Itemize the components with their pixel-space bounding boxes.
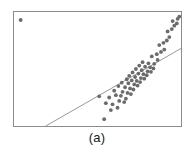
data-point — [123, 85, 127, 89]
data-point — [125, 77, 129, 81]
data-point — [162, 41, 166, 45]
data-point — [124, 97, 128, 101]
data-point — [104, 101, 108, 105]
data-point — [156, 58, 160, 62]
data-point — [165, 39, 169, 43]
plot-frame — [14, 12, 182, 127]
data-point — [131, 71, 135, 75]
data-point — [159, 50, 163, 54]
data-point — [120, 81, 124, 85]
data-point — [121, 90, 125, 94]
data-point — [142, 77, 146, 81]
data-point — [147, 61, 151, 65]
data-point — [152, 67, 156, 71]
data-point — [141, 60, 145, 64]
data-point — [130, 79, 134, 83]
data-point — [134, 67, 138, 71]
data-point — [127, 74, 131, 78]
data-points — [19, 15, 181, 121]
data-point — [114, 93, 118, 97]
data-point — [137, 72, 141, 76]
data-point — [102, 117, 106, 121]
data-point — [152, 62, 156, 66]
data-point — [128, 86, 132, 90]
plot-canvas — [13, 11, 182, 127]
reference-line — [46, 48, 181, 126]
data-point — [19, 18, 23, 22]
data-point — [117, 99, 121, 103]
data-point — [112, 89, 116, 93]
data-point — [146, 69, 150, 73]
data-point — [122, 100, 126, 104]
data-point — [177, 15, 181, 19]
data-point — [109, 108, 113, 112]
data-point — [137, 64, 141, 68]
data-point — [175, 22, 179, 26]
data-point — [166, 29, 170, 33]
data-point — [148, 65, 152, 69]
data-point — [143, 65, 147, 69]
data-point — [107, 96, 111, 100]
data-point — [97, 94, 101, 98]
data-point — [133, 75, 137, 79]
figure-caption: (a) — [0, 130, 194, 145]
data-point — [170, 27, 174, 31]
data-point — [111, 102, 115, 106]
figure-panel: (a) — [0, 0, 194, 155]
data-point — [132, 88, 136, 92]
data-point — [119, 94, 123, 98]
data-point — [162, 48, 166, 52]
data-point — [145, 73, 149, 77]
data-point — [150, 55, 154, 59]
data-point — [132, 82, 136, 86]
data-point — [140, 68, 144, 72]
data-point — [126, 91, 130, 95]
data-point — [142, 72, 146, 76]
data-point — [129, 92, 133, 96]
data-point — [157, 43, 161, 47]
data-point — [138, 80, 142, 84]
data-point — [136, 84, 140, 88]
scatter-plot — [13, 11, 182, 127]
data-point — [139, 76, 143, 80]
data-point — [116, 84, 120, 88]
data-point — [155, 52, 159, 56]
data-point — [127, 81, 131, 85]
data-point — [171, 19, 175, 23]
data-point — [149, 70, 153, 74]
data-point — [135, 79, 139, 83]
data-point — [167, 35, 171, 39]
data-point — [116, 106, 120, 110]
